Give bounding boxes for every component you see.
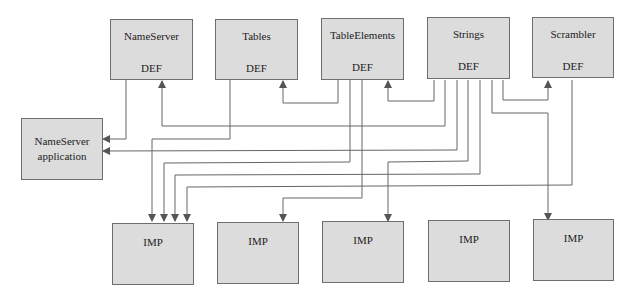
module-kind: IMP <box>218 235 298 247</box>
module-name: Strings <box>428 28 509 40</box>
def-scrambler: Scrambler DEF <box>532 17 614 78</box>
app-label: application <box>38 149 87 164</box>
imp-2: IMP <box>217 222 299 284</box>
wire-strings-to-app <box>103 80 457 151</box>
module-name: Tables <box>216 30 297 42</box>
imp-3: IMP <box>322 221 404 283</box>
def-tableelements: TableElements DEF <box>321 18 404 80</box>
module-kind: DEF <box>533 60 613 72</box>
wire-tableelements-to-tables <box>283 80 338 103</box>
module-kind: IMP <box>113 236 193 248</box>
module-name: Scrambler <box>533 28 613 40</box>
def-nameserver: NameServer DEF <box>110 19 193 80</box>
wire-nameserver-to-app <box>103 80 126 139</box>
module-kind: DEF <box>322 61 403 73</box>
wire-strings-to-scrambler <box>503 80 548 100</box>
module-kind: DEF <box>111 62 192 74</box>
module-name: NameServer <box>111 30 192 42</box>
imp-4: IMP <box>428 220 510 282</box>
module-kind: DEF <box>216 62 297 74</box>
module-kind: IMP <box>534 232 613 244</box>
module-name: TableElements <box>322 29 403 41</box>
app-name: NameServer <box>35 134 90 149</box>
imp-1: IMP <box>112 223 194 285</box>
wire-strings-to-tableelements <box>388 80 434 101</box>
nameserver-application: NameServer application <box>21 118 103 180</box>
wire-strings-to-imp5 <box>492 80 548 220</box>
def-tables: Tables DEF <box>215 19 298 80</box>
def-strings: Strings DEF <box>427 17 510 79</box>
module-kind: DEF <box>428 60 509 72</box>
module-kind: IMP <box>429 233 509 245</box>
module-kind: IMP <box>323 234 403 246</box>
imp-5: IMP <box>533 219 614 281</box>
